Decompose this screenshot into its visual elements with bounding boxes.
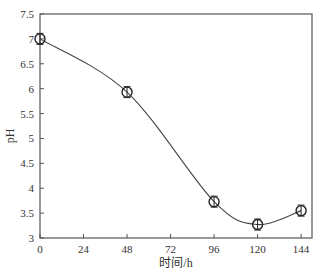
ph-curve bbox=[40, 39, 301, 225]
x-axis-title: 时间/h bbox=[159, 256, 192, 270]
x-tick-label: 96 bbox=[209, 243, 221, 255]
y-axis-title: pH bbox=[3, 128, 17, 143]
y-tick-label: 7 bbox=[29, 33, 35, 45]
x-tick-label: 120 bbox=[249, 243, 266, 255]
y-tick-label: 4 bbox=[29, 182, 35, 194]
chart-svg: 33.544.555.566.577.5024487296120144时间/hp… bbox=[0, 0, 322, 274]
y-tick-label: 5.5 bbox=[20, 108, 34, 120]
x-tick-label: 72 bbox=[165, 243, 176, 255]
x-tick-label: 0 bbox=[37, 243, 43, 255]
x-tick-label: 48 bbox=[122, 243, 134, 255]
y-tick-label: 6 bbox=[29, 83, 35, 95]
y-tick-label: 6.5 bbox=[20, 58, 34, 70]
plot-area: 33.544.555.566.577.5024487296120144时间/hp… bbox=[3, 8, 312, 270]
y-tick-label: 3 bbox=[29, 232, 35, 244]
y-tick-label: 7.5 bbox=[20, 8, 34, 20]
y-tick-label: 3.5 bbox=[20, 207, 34, 219]
y-tick-label: 5 bbox=[29, 132, 35, 144]
y-tick-label: 4.5 bbox=[20, 157, 34, 169]
plot-frame bbox=[40, 14, 312, 238]
x-tick-label: 24 bbox=[78, 243, 90, 255]
x-tick-label: 144 bbox=[293, 243, 310, 255]
